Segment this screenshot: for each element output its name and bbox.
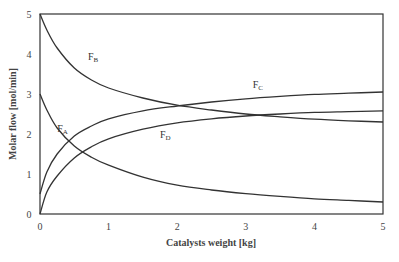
series-lines: [40, 14, 383, 214]
x-tick-label: 3: [243, 221, 248, 232]
y-tick-label: 5: [27, 9, 32, 20]
series-label-f-b: FB: [88, 51, 99, 64]
plot-frame: [40, 14, 383, 214]
series-label-f-a: FA: [57, 123, 68, 136]
series-line-f-b: [40, 14, 383, 122]
x-tick-label: 5: [381, 221, 386, 232]
x-tick-label: 4: [312, 221, 317, 232]
series-label-f-d: FD: [160, 129, 171, 142]
series-label-f-c: FC: [253, 79, 264, 92]
y-tick-label: 1: [27, 169, 32, 180]
x-tick-label: 1: [106, 221, 111, 232]
plot-area: [40, 14, 383, 214]
x-axis-ticks: 012345: [38, 221, 386, 232]
line-chart: FAFBFCFD 012345 012345 Catalysts weight …: [0, 0, 399, 262]
x-tick-label: 2: [175, 221, 180, 232]
y-axis-ticks: 012345: [27, 9, 32, 220]
x-axis-label: Catalysts weight [kg]: [166, 237, 256, 248]
y-tick-label: 4: [27, 49, 32, 60]
x-tick-label: 0: [38, 221, 43, 232]
y-tick-label: 2: [27, 129, 32, 140]
y-axis-label: Molar flow [mol/min]: [7, 68, 18, 160]
y-tick-label: 3: [27, 89, 32, 100]
series-line-f-c: [40, 92, 383, 194]
y-tick-label: 0: [27, 209, 32, 220]
